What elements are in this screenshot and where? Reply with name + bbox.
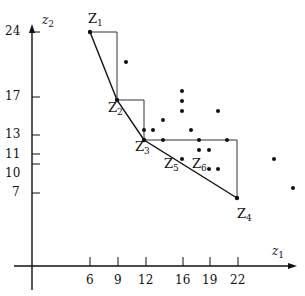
y-tick-label-17: 17 bbox=[5, 90, 20, 102]
x-axis-arrow-icon bbox=[288, 263, 297, 269]
x-ticks bbox=[90, 257, 238, 266]
diagram-figure: 24 17 13 11 10 7 6 9 12 16 19 22 z2 z1 Z… bbox=[0, 0, 305, 296]
x-tick-label-22: 22 bbox=[230, 274, 245, 286]
x-tick-label-12: 12 bbox=[138, 274, 153, 286]
label-z4: Z4 bbox=[237, 207, 252, 223]
label-z6: Z6 bbox=[192, 157, 207, 173]
x-axis-label: z1 bbox=[272, 245, 284, 260]
y-axis-label: z2 bbox=[42, 14, 54, 29]
label-z1: Z1 bbox=[88, 12, 103, 28]
diagram-canvas bbox=[0, 0, 305, 296]
x-tick-label-9: 9 bbox=[114, 274, 122, 286]
label-z3: Z3 bbox=[135, 140, 150, 156]
x-tick-label-16: 16 bbox=[175, 274, 190, 286]
y-tick-label-10: 10 bbox=[5, 167, 20, 179]
label-z5: Z5 bbox=[164, 157, 179, 173]
y-tick-label-24: 24 bbox=[5, 25, 20, 37]
y-ticks bbox=[32, 32, 40, 193]
x-tick-label-6: 6 bbox=[86, 274, 94, 286]
x-tick-label-19: 19 bbox=[202, 274, 217, 286]
y-tick-label-11: 11 bbox=[5, 148, 20, 160]
scatter-points bbox=[124, 60, 295, 190]
label-z2: Z2 bbox=[108, 101, 123, 117]
y-tick-label-13: 13 bbox=[5, 128, 20, 140]
y-tick-label-7: 7 bbox=[12, 186, 20, 198]
